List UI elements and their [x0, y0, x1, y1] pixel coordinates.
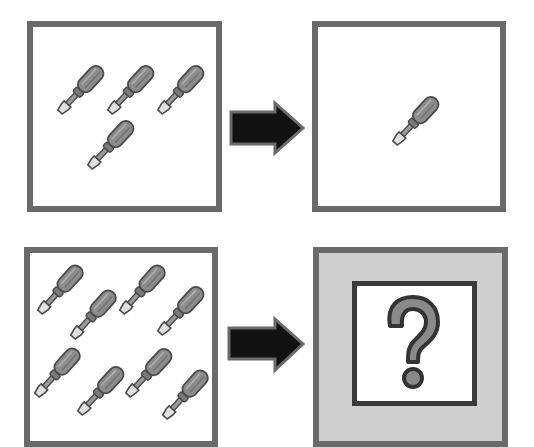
- screwdriver-icon: [123, 346, 175, 400]
- screwdriver-icon: [34, 262, 85, 317]
- screwdriver-icon: [31, 345, 82, 400]
- screwdriver-icon: [55, 63, 107, 117]
- row1-screwdrivers: [55, 63, 207, 172]
- screwdriver-icon: [155, 63, 207, 117]
- right-arrow-icon: [231, 103, 303, 153]
- screwdriver-icon: [116, 262, 167, 317]
- question-mark-icon: [389, 297, 438, 387]
- row1-output-screwdriver: [390, 94, 442, 148]
- screwdriver-icon: [75, 364, 127, 418]
- screwdriver-icon: [159, 367, 210, 422]
- right-arrow-icon: [229, 319, 303, 370]
- screwdriver-icon: [390, 94, 442, 148]
- screwdriver-icon: [155, 284, 207, 338]
- row2-screwdrivers: [31, 262, 210, 422]
- screwdriver-icon: [105, 63, 157, 117]
- screwdriver-icon: [67, 287, 118, 342]
- screwdriver-icon: [85, 118, 137, 172]
